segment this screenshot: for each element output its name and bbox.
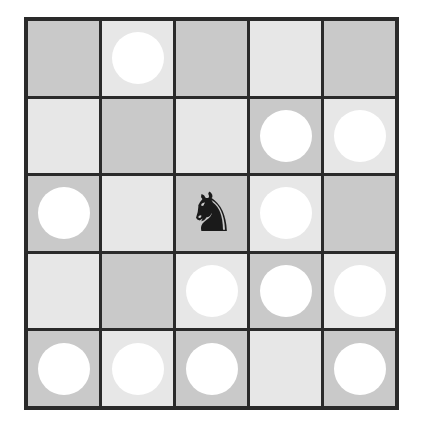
board-cell-r0-c4[interactable] (324, 21, 395, 96)
white-circle-marker[interactable] (260, 265, 312, 317)
board-cell-r4-c4[interactable] (324, 331, 395, 406)
white-circle-marker[interactable] (112, 343, 164, 395)
game-board: ♞ (24, 17, 399, 410)
board-cell-r1-c3[interactable] (250, 99, 321, 174)
board-cell-r4-c3[interactable] (250, 331, 321, 406)
board-cell-r0-c0[interactable] (28, 21, 99, 96)
board-cell-r1-c0[interactable] (28, 99, 99, 174)
board-cell-r3-c0[interactable] (28, 254, 99, 329)
board-cell-r2-c2[interactable]: ♞ (176, 176, 247, 251)
board-cell-r0-c3[interactable] (250, 21, 321, 96)
white-circle-marker[interactable] (260, 187, 312, 239)
white-circle-marker[interactable] (186, 265, 238, 317)
board-cell-r3-c3[interactable] (250, 254, 321, 329)
white-circle-marker[interactable] (38, 187, 90, 239)
white-circle-marker[interactable] (38, 343, 90, 395)
board-cell-r4-c2[interactable] (176, 331, 247, 406)
board-cell-r1-c2[interactable] (176, 99, 247, 174)
white-circle-marker[interactable] (334, 343, 386, 395)
black-knight-icon[interactable]: ♞ (187, 186, 235, 240)
board-cell-r2-c3[interactable] (250, 176, 321, 251)
board-cell-r4-c1[interactable] (102, 331, 173, 406)
board-cell-r2-c1[interactable] (102, 176, 173, 251)
board-cell-r3-c1[interactable] (102, 254, 173, 329)
board-cell-r2-c4[interactable] (324, 176, 395, 251)
board-cell-r0-c1[interactable] (102, 21, 173, 96)
white-circle-marker[interactable] (260, 110, 312, 162)
white-circle-marker[interactable] (112, 32, 164, 84)
board-cell-r3-c4[interactable] (324, 254, 395, 329)
board-cell-r1-c1[interactable] (102, 99, 173, 174)
white-circle-marker[interactable] (334, 265, 386, 317)
board-cell-r1-c4[interactable] (324, 99, 395, 174)
board-cell-r3-c2[interactable] (176, 254, 247, 329)
board-cell-r4-c0[interactable] (28, 331, 99, 406)
white-circle-marker[interactable] (186, 343, 238, 395)
board-cell-r2-c0[interactable] (28, 176, 99, 251)
board-cell-r0-c2[interactable] (176, 21, 247, 96)
white-circle-marker[interactable] (334, 110, 386, 162)
